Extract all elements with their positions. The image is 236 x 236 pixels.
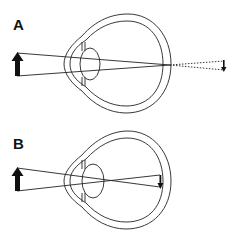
panel-b-object-arrow-icon bbox=[12, 167, 24, 191]
panel-a-object-arrow-icon bbox=[12, 52, 24, 76]
panel-b-rays bbox=[17, 168, 160, 191]
panel-a-rays bbox=[17, 53, 224, 76]
eye-diagram bbox=[0, 0, 236, 236]
